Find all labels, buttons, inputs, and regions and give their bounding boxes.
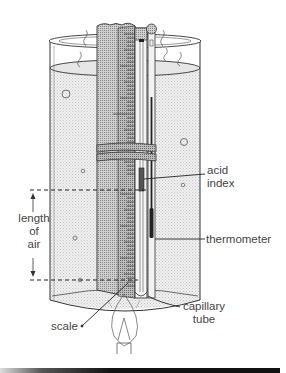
label-scale: scale (51, 320, 78, 333)
label-capillary-tube: capillary tube (180, 300, 228, 326)
label-thermometer: thermometer (206, 233, 271, 246)
acid-index (139, 168, 144, 191)
label-acid-index: acid index (207, 164, 235, 190)
bottom-rule (0, 368, 280, 373)
thermometer-bulb (150, 208, 154, 238)
label-length-of-air: length of air (14, 212, 54, 251)
sealed-end (139, 39, 144, 42)
arrow-down-icon (31, 271, 36, 277)
arrow-up-icon (31, 193, 36, 199)
apparatus-diagram (0, 0, 286, 373)
capillary-tube (135, 28, 147, 298)
